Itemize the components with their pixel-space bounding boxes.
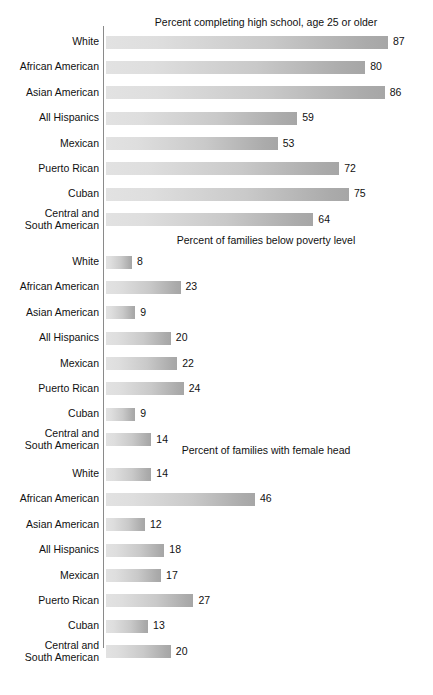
bar <box>106 213 313 226</box>
bar <box>106 408 135 421</box>
bar-value-label: 23 <box>186 280 198 294</box>
category-label: White <box>0 467 99 479</box>
bar <box>106 61 365 74</box>
bar-value-label: 12 <box>150 518 162 532</box>
bar-track: 87 <box>106 36 388 49</box>
bar-track: 53 <box>106 137 278 150</box>
bar-value-label: 20 <box>176 331 188 345</box>
bar-track: 22 <box>106 357 177 370</box>
bar-row: Cuban9 <box>0 402 433 427</box>
bar-row: Asian American9 <box>0 301 433 326</box>
category-label: Asian American <box>0 86 99 98</box>
bar-track: 23 <box>106 281 181 294</box>
bar-track: 20 <box>106 332 171 345</box>
bar <box>106 162 339 175</box>
panel-rows: White8African American23Asian American9A… <box>0 250 433 453</box>
bar-value-label: 59 <box>302 111 314 125</box>
bar-track: 24 <box>106 382 184 395</box>
bar-track: 72 <box>106 162 339 175</box>
bar-value-label: 18 <box>169 543 181 557</box>
bar-row: White8 <box>0 250 433 275</box>
bar-value-label: 64 <box>318 213 330 227</box>
category-label: White <box>0 255 99 267</box>
bar-row: African American46 <box>0 487 433 512</box>
bar-track: 64 <box>106 213 313 226</box>
bar-row: Central and South American20 <box>0 640 433 665</box>
bar <box>106 306 135 319</box>
bar-track: 8 <box>106 256 132 269</box>
bar-value-label: 75 <box>354 187 366 201</box>
bar-row: White14 <box>0 462 433 487</box>
bar-value-label: 46 <box>260 492 272 506</box>
bar-value-label: 24 <box>189 382 201 396</box>
bar <box>106 86 385 99</box>
bar <box>106 281 181 294</box>
bar <box>106 332 171 345</box>
bar-value-label: 72 <box>344 162 356 176</box>
panel-rows: White87African American80Asian American8… <box>0 30 433 233</box>
bar-value-label: 8 <box>137 255 143 269</box>
category-label: Cuban <box>0 187 99 199</box>
bar <box>106 569 161 582</box>
category-label: African American <box>0 280 99 292</box>
category-label: Mexican <box>0 569 99 581</box>
bar-row: White87 <box>0 30 433 55</box>
bar-row: All Hispanics18 <box>0 538 433 563</box>
bar-row: Puerto Rican24 <box>0 377 433 402</box>
bar <box>106 357 177 370</box>
bar-row: Puerto Rican72 <box>0 157 433 182</box>
bar-value-label: 14 <box>156 467 168 481</box>
bar-track: 14 <box>106 468 151 481</box>
bar-value-label: 20 <box>176 645 188 659</box>
bar-track: 27 <box>106 594 193 607</box>
bar-value-label: 22 <box>182 357 194 371</box>
bar-value-label: 9 <box>140 407 146 421</box>
bar-row: Mexican53 <box>0 132 433 157</box>
bar-track: 75 <box>106 188 349 201</box>
category-label: All Hispanics <box>0 111 99 123</box>
bar <box>106 468 151 481</box>
bar-track: 9 <box>106 306 135 319</box>
bar <box>106 382 184 395</box>
bar <box>106 112 297 125</box>
bar-row: Cuban75 <box>0 182 433 207</box>
bar-track: 80 <box>106 61 365 74</box>
bar <box>106 544 164 557</box>
bar-row: All Hispanics20 <box>0 326 433 351</box>
bar-track: 59 <box>106 112 297 125</box>
category-label: Cuban <box>0 407 99 419</box>
bar-row: Mexican17 <box>0 564 433 589</box>
category-label: Central and South American <box>0 427 99 451</box>
bar <box>106 188 349 201</box>
category-label: Cuban <box>0 619 99 631</box>
category-label: All Hispanics <box>0 543 99 555</box>
bar-track: 86 <box>106 86 385 99</box>
category-label: All Hispanics <box>0 331 99 343</box>
category-label: Mexican <box>0 137 99 149</box>
bar-track: 17 <box>106 569 161 582</box>
bar-row: African American80 <box>0 55 433 80</box>
bar <box>106 36 388 49</box>
bar <box>106 493 255 506</box>
category-label: Mexican <box>0 357 99 369</box>
bar <box>106 518 145 531</box>
category-label: African American <box>0 492 99 504</box>
bar-value-label: 13 <box>153 619 165 633</box>
bar-row: Cuban13 <box>0 614 433 639</box>
bar-value-label: 87 <box>393 35 405 49</box>
category-label: Puerto Rican <box>0 162 99 174</box>
bar-track: 9 <box>106 408 135 421</box>
bar <box>106 256 132 269</box>
bar-row: African American23 <box>0 275 433 300</box>
bar-track: 12 <box>106 518 145 531</box>
bar-row: Asian American12 <box>0 513 433 538</box>
bar <box>106 594 193 607</box>
category-label: Central and South American <box>0 207 99 231</box>
bar-row: Puerto Rican27 <box>0 589 433 614</box>
bar-value-label: 53 <box>283 137 295 151</box>
bar-value-label: 27 <box>198 594 210 608</box>
bar-row: All Hispanics59 <box>0 106 433 131</box>
category-label: Asian American <box>0 518 99 530</box>
category-label: White <box>0 35 99 47</box>
bar-value-label: 80 <box>370 60 382 74</box>
